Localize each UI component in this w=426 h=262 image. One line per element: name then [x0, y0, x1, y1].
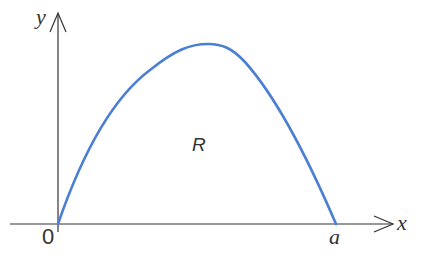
diagram-canvas — [0, 0, 426, 262]
origin-label: 0 — [42, 224, 54, 250]
x-axis-label: x — [397, 210, 407, 236]
region-label: R — [192, 134, 206, 156]
y-axis-label: y — [36, 4, 46, 30]
diagram: y 0 a x R — [0, 0, 426, 262]
a-label: a — [329, 224, 340, 250]
